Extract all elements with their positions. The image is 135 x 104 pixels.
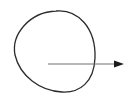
arrowhead-icon bbox=[114, 61, 124, 68]
closed-curve bbox=[14, 11, 95, 92]
diagram-canvas bbox=[0, 0, 135, 104]
